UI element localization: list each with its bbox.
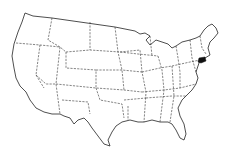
- highlighted-state-connecticut: [198, 57, 206, 63]
- us-map: [0, 0, 230, 166]
- us-map-svg: [0, 0, 230, 166]
- us-outline: [12, 13, 218, 146]
